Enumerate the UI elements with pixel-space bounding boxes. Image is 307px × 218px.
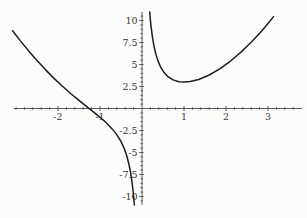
y-tick-label: 2.5 — [122, 81, 137, 92]
x-tick-label: 1 — [181, 111, 187, 122]
y-tick-label: 10 — [125, 15, 137, 26]
y-tick-label: 7.5 — [122, 37, 137, 48]
y-tick-label: -10 — [122, 191, 137, 202]
y-tick-label: -5 — [128, 147, 137, 158]
x-tick-label: 2 — [223, 111, 229, 122]
curve-right-branch — [150, 12, 274, 82]
y-tick-label: 5 — [131, 59, 137, 70]
y-tick-label: -2.5 — [119, 125, 137, 136]
y-tick-label: -7.5 — [119, 169, 137, 180]
function-plot-canvas: -2-1123107.552.5-2.5-5-7.5-10 — [0, 0, 307, 218]
x-tick-label: 3 — [265, 111, 271, 122]
plot-figure: -2-1123107.552.5-2.5-5-7.5-10 — [0, 0, 307, 218]
curve-left-branch — [13, 31, 135, 205]
x-tick-label: -2 — [53, 111, 62, 122]
